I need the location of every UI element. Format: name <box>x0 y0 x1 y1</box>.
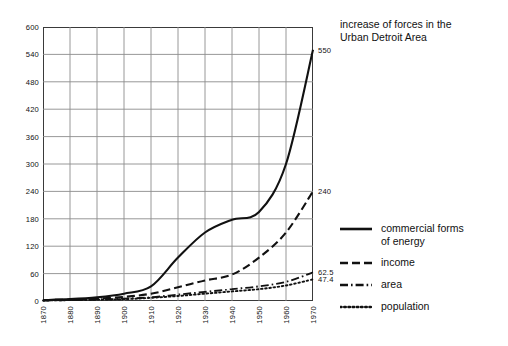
chart-legend: commercial forms of energyincomeareapopu… <box>340 222 508 322</box>
x-axis-tick-label: 1880 <box>66 306 75 324</box>
x-axis-tick-label: 1970 <box>309 306 318 324</box>
chart-title: increase of forces in the Urban Detroit … <box>340 18 508 44</box>
series-line <box>43 50 313 300</box>
chart-figure: increase of forces in the Urban Detroit … <box>0 0 508 346</box>
plot-area: 060120180240300360420480540600 187018801… <box>43 27 313 301</box>
legend-item-label: population <box>381 300 429 313</box>
x-axis-tick-label: 1910 <box>147 306 156 324</box>
legend-item: population <box>340 300 508 313</box>
x-axis-tick-label: 1950 <box>255 306 264 324</box>
y-axis-tick-label: 540 <box>26 50 39 59</box>
x-axis-tick-label: 1940 <box>228 306 237 324</box>
series-end-label: 47.4 <box>318 275 334 284</box>
y-axis-tick-label: 600 <box>26 23 39 32</box>
legend-item: income <box>340 256 508 269</box>
y-axis-tick-label: 120 <box>26 242 39 251</box>
y-axis-tick-label: 480 <box>26 77 39 86</box>
legend-item: commercial forms of energy <box>340 222 508 247</box>
legend-item-label: income <box>381 256 415 269</box>
y-axis-tick-label: 180 <box>26 214 39 223</box>
series-end-label: 550 <box>318 45 331 54</box>
x-axis-tick-label: 1930 <box>201 306 210 324</box>
legend-item-label: area <box>381 278 402 291</box>
x-axis-tick-label: 1960 <box>282 306 291 324</box>
dotted-line-icon <box>340 301 372 313</box>
y-axis-tick-label: 360 <box>26 132 39 141</box>
y-axis-tick-label: 240 <box>26 187 39 196</box>
legend-item: area <box>340 278 508 291</box>
y-axis-tick-label: 420 <box>26 105 39 114</box>
x-axis-tick-label: 1900 <box>120 306 129 324</box>
legend-item-label: commercial forms of energy <box>381 222 464 247</box>
dash-dot-line-icon <box>340 279 372 291</box>
y-axis-tick-label: 300 <box>26 160 39 169</box>
y-axis-tick-label: 0 <box>35 297 39 306</box>
solid-line-icon <box>340 223 372 235</box>
series-lines <box>43 27 313 301</box>
y-axis-tick-label: 60 <box>30 269 39 278</box>
x-axis-tick-label: 1890 <box>93 306 102 324</box>
dashed-line-icon <box>340 257 372 269</box>
x-axis-tick-label: 1920 <box>174 306 183 324</box>
series-end-label: 240 <box>318 187 331 196</box>
x-axis-tick-label: 1870 <box>39 306 48 324</box>
